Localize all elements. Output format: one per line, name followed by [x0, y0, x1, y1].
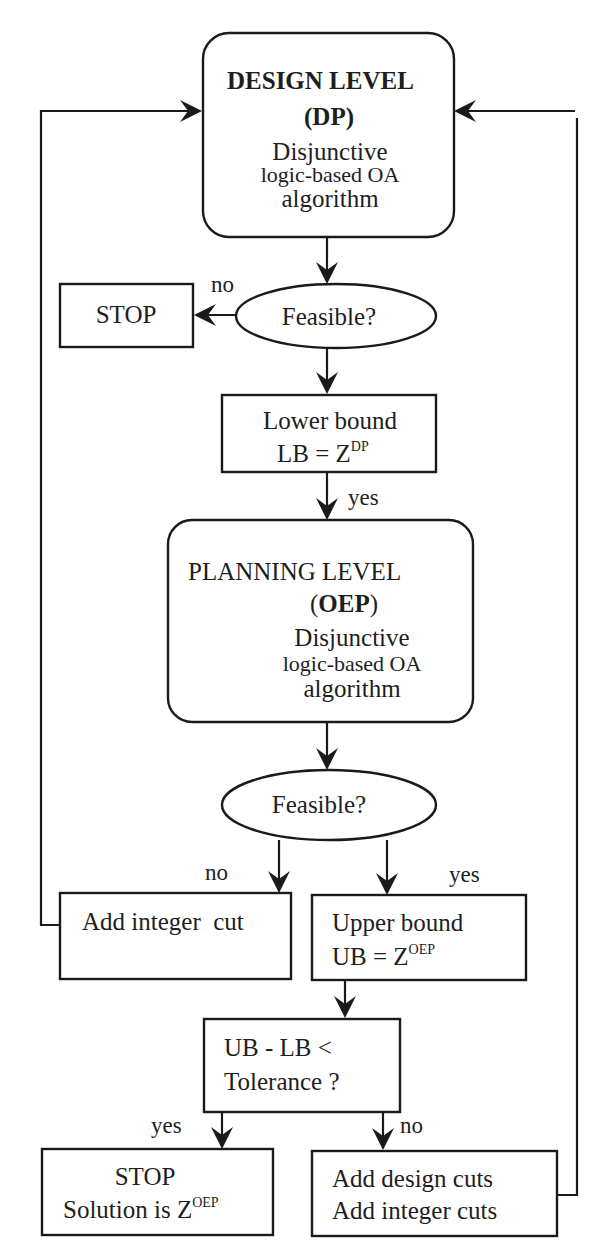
lower-bound-superscript: DP	[351, 439, 369, 454]
node-feasible-dp: Feasible?	[236, 284, 436, 348]
planning-level-title: PLANNING LEVEL	[188, 558, 401, 585]
add-cuts-line1: Add design cuts	[332, 1165, 493, 1192]
design-level-line2: logic-based OA	[261, 162, 400, 187]
design-level-line3: algorithm	[281, 185, 379, 212]
lower-bound-formula: LB = Z	[277, 440, 351, 467]
planning-level-abbrev: (OEP)	[310, 590, 378, 618]
planning-level-line2: logic-based OA	[283, 651, 422, 676]
edge-label-oep-no: no	[205, 860, 228, 885]
flowchart-diagram: DESIGN LEVEL (DP) Disjunctive logic-base…	[0, 0, 605, 1260]
planning-level-line1: Disjunctive	[294, 624, 409, 651]
feasible-oep-label: Feasible?	[272, 791, 366, 818]
node-stop-solution: STOP Solution is ZOEP	[42, 1149, 273, 1235]
edge-label-tolerance-no: no	[400, 1113, 423, 1138]
add-integer-cut-label: Add integer cut	[82, 908, 244, 935]
node-feasible-oep: Feasible?	[222, 770, 436, 840]
lower-bound-line1: Lower bound	[263, 407, 397, 434]
stop-solution-formula: Solution is Z	[63, 1196, 192, 1223]
edge-label-oep-yes: yes	[449, 862, 480, 887]
upper-bound-line1: Upper bound	[332, 909, 464, 936]
node-tolerance-check: UB - LB < Tolerance ?	[204, 1019, 400, 1112]
edge-left-feedback-loop	[41, 111, 194, 925]
stop-infeasible-label: STOP	[96, 301, 157, 328]
planning-level-abbrev-core: OEP	[318, 590, 369, 617]
tolerance-check-line1: UB - LB <	[224, 1034, 332, 1061]
edge-label-lb-yes: yes	[348, 485, 379, 510]
feasible-dp-label: Feasible?	[282, 303, 376, 330]
upper-bound-superscript: OEP	[409, 942, 436, 957]
tolerance-check-box	[204, 1019, 400, 1112]
design-level-line1: Disjunctive	[272, 138, 387, 165]
edge-right-feedback-loop	[558, 118, 577, 1195]
node-lower-bound: Lower bound LB = ZDP	[222, 395, 436, 472]
node-design-level: DESIGN LEVEL (DP) Disjunctive logic-base…	[203, 33, 454, 237]
design-level-title: DESIGN LEVEL	[227, 67, 414, 94]
add-cuts-line2: Add integer cuts	[332, 1197, 497, 1224]
node-upper-bound: Upper bound UB = ZOEP	[312, 895, 526, 980]
node-add-cuts: Add design cuts Add integer cuts	[312, 1151, 557, 1236]
node-stop-infeasible: STOP	[60, 284, 193, 347]
tolerance-check-line2: Tolerance ?	[224, 1068, 340, 1095]
stop-solution-superscript: OEP	[192, 1195, 219, 1210]
upper-bound-formula: UB = Z	[332, 943, 409, 970]
stop-solution-line1: STOP	[115, 1163, 176, 1190]
add-integer-cut-box	[60, 893, 291, 979]
planning-level-line3: algorithm	[303, 675, 401, 702]
node-planning-level: PLANNING LEVEL (OEP) Disjunctive logic-b…	[168, 520, 473, 722]
design-level-abbrev: (DP)	[304, 103, 354, 131]
edge-label-tolerance-yes: yes	[151, 1113, 182, 1138]
edge-label-dp-no: no	[211, 272, 234, 297]
node-add-integer-cut: Add integer cut	[60, 893, 291, 979]
